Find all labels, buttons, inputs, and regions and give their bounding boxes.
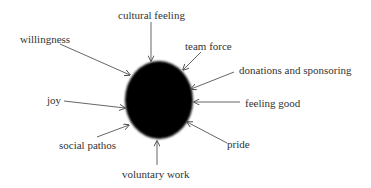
center-ellipse — [125, 61, 193, 139]
label-social-pathos: social pathos — [59, 139, 116, 151]
label-joy: joy — [47, 94, 61, 106]
arrow-social-pathos — [97, 125, 129, 137]
concept-diagram: cultural feeling willingness team force … — [0, 0, 371, 188]
label-voluntary-work: voluntary work — [122, 168, 190, 180]
arrow-pride — [187, 122, 227, 143]
label-donations-and-sponsoring: donations and sponsoring — [239, 64, 351, 76]
label-team-force: team force — [185, 40, 232, 52]
label-cultural-feeling: cultural feeling — [118, 9, 185, 21]
arrow-team-force — [183, 52, 201, 70]
label-feeling-good: feeling good — [245, 97, 300, 109]
arrow-joy — [64, 101, 125, 108]
label-pride: pride — [227, 138, 250, 150]
label-willingness: willingness — [20, 33, 70, 45]
arrow-willingness — [60, 44, 130, 75]
arrow-donations — [191, 72, 234, 89]
